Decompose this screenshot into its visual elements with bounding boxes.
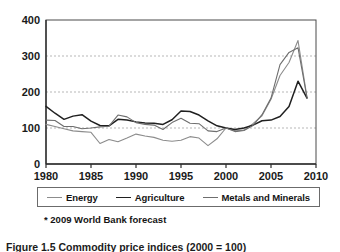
legend-item-energy[interactable]: Energy xyxy=(45,192,100,203)
figure-caption-clipped: Figure 1.5 Commodity price indices (2000… xyxy=(0,243,340,252)
y-tick-label-300: 300 xyxy=(22,50,40,62)
legend-label: Agriculture xyxy=(135,192,185,203)
y-tick-label-0: 0 xyxy=(34,158,40,170)
legend-item-agriculture[interactable]: Agriculture xyxy=(114,192,187,203)
legend-swatch-icon xyxy=(116,197,131,198)
chart-legend: EnergyAgricultureMetals and Minerals xyxy=(37,187,320,207)
y-tick-label-100: 100 xyxy=(22,122,40,134)
x-tick-label-2010: 2010 xyxy=(304,170,328,182)
x-tick-label-1990: 1990 xyxy=(124,170,148,182)
x-tick-label-1995: 1995 xyxy=(169,170,193,182)
y-tick-label-200: 200 xyxy=(22,86,40,98)
legend-label: Energy xyxy=(66,192,98,203)
x-tick-label-2005: 2005 xyxy=(259,170,283,182)
x-tick-label-2000: 2000 xyxy=(214,170,238,182)
legend-label: Metals and Minerals xyxy=(222,192,310,203)
figure-container: 0100200300400198019851990199520002005201… xyxy=(0,0,340,252)
legend-swatch-icon xyxy=(203,197,218,198)
legend-item-metals-and-minerals[interactable]: Metals and Minerals xyxy=(201,192,312,203)
figure-caption-text: Figure 1.5 Commodity price indices (2000… xyxy=(6,243,246,252)
y-tick-label-400: 400 xyxy=(22,14,40,26)
x-tick-label-1980: 1980 xyxy=(34,170,58,182)
legend-swatch-icon xyxy=(47,197,62,198)
series-line-metals-and-minerals xyxy=(46,48,307,132)
x-tick-label-1985: 1985 xyxy=(79,170,103,182)
chart-footnote: * 2009 World Bank forecast xyxy=(44,214,166,225)
